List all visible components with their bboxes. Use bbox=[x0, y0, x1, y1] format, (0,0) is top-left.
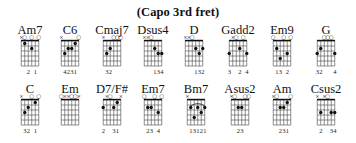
chord-dsus4: Dsus4××○134 bbox=[131, 24, 175, 80]
finger-dot bbox=[153, 47, 156, 50]
finger-number: 2 bbox=[319, 127, 322, 134]
chord-diagram: ×○○324 bbox=[216, 24, 260, 74]
finger-number: 2 bbox=[286, 68, 289, 75]
finger-dot bbox=[34, 101, 37, 104]
finger-dot bbox=[286, 52, 289, 55]
chord-em9: Em9○○○132 bbox=[260, 24, 304, 80]
finger-dot bbox=[102, 106, 105, 109]
open-string-marker: ○ bbox=[36, 34, 41, 40]
finger-dot bbox=[201, 47, 204, 50]
muted-string-marker: × bbox=[185, 93, 189, 99]
finger-dot bbox=[316, 52, 319, 55]
finger-dot bbox=[109, 47, 112, 50]
open-string-marker: ○ bbox=[29, 93, 34, 99]
finger-dot bbox=[279, 57, 282, 60]
chord-em7: Em7○○○234 bbox=[131, 83, 175, 139]
open-string-marker: ○ bbox=[246, 93, 251, 99]
finger-dot bbox=[74, 42, 77, 45]
finger-number: 2 bbox=[319, 68, 322, 75]
chord-diagram: ×○○231 bbox=[260, 83, 304, 133]
finger-number: 4 bbox=[333, 68, 337, 75]
finger-number: 2 bbox=[27, 127, 30, 134]
finger-dot bbox=[157, 52, 160, 55]
finger-dot bbox=[238, 47, 241, 50]
chord-diagram: ×○○○21 bbox=[8, 24, 52, 74]
chord-c6: C6×○4231 bbox=[48, 24, 92, 80]
chord-c: C×○○321 bbox=[8, 83, 52, 139]
chord-csus2: Csus2××○234 bbox=[304, 83, 348, 139]
finger-dot bbox=[63, 52, 66, 55]
open-string-marker: ○ bbox=[76, 34, 81, 40]
finger-number: 1 bbox=[116, 127, 119, 134]
finger-dot bbox=[319, 47, 322, 50]
finger-number: 3 bbox=[150, 127, 153, 134]
chord-diagram: ×○○321 bbox=[8, 83, 52, 133]
finger-number: 4 bbox=[157, 127, 161, 134]
finger-dot bbox=[330, 111, 333, 114]
finger-dot bbox=[237, 106, 240, 109]
finger-dot bbox=[240, 106, 243, 109]
finger-number: 3 bbox=[228, 68, 231, 75]
open-string-marker: ○ bbox=[325, 93, 330, 99]
finger-dot bbox=[228, 52, 231, 55]
open-string-marker: ○ bbox=[22, 34, 27, 40]
finger-number: 2 bbox=[102, 127, 105, 134]
open-string-marker: ○ bbox=[29, 34, 34, 40]
chord-d: D××○132 bbox=[172, 24, 216, 80]
finger-dot bbox=[70, 47, 73, 50]
chord-diagram: ××○134 bbox=[131, 24, 175, 74]
finger-dot bbox=[194, 47, 197, 50]
finger-dot bbox=[196, 106, 199, 109]
open-string-marker: ○ bbox=[281, 34, 286, 40]
finger-dot bbox=[245, 52, 248, 55]
finger-dot bbox=[116, 101, 119, 104]
muted-string-marker: × bbox=[101, 34, 105, 40]
finger-dot bbox=[193, 116, 196, 119]
finger-number: 1 bbox=[203, 127, 206, 134]
finger-dot bbox=[105, 52, 108, 55]
finger-dot bbox=[319, 111, 322, 114]
chord-diagram: ○××○○× bbox=[48, 83, 92, 133]
chord-am7: Am7×○○○21 bbox=[8, 24, 52, 80]
finger-dot bbox=[200, 111, 203, 114]
muted-string-marker: × bbox=[315, 93, 319, 99]
open-string-marker: ○ bbox=[234, 34, 239, 40]
finger-number: 1 bbox=[74, 68, 77, 75]
chord-diagram: ○○○234 bbox=[131, 83, 175, 133]
chord-diagram: ×○○○23 bbox=[218, 83, 262, 133]
chord-diagram: ×○4231 bbox=[48, 24, 92, 74]
chord-asus2: Asus2×○○○23 bbox=[218, 83, 262, 139]
finger-dot bbox=[189, 106, 192, 109]
chord-diagram: ×○×231 bbox=[90, 83, 134, 133]
muted-string-marker: × bbox=[59, 34, 63, 40]
finger-number: 4 bbox=[245, 68, 249, 75]
finger-dot bbox=[203, 106, 206, 109]
finger-number: 2 bbox=[27, 68, 30, 75]
open-string-marker: ○ bbox=[159, 93, 164, 99]
open-string-marker: ○ bbox=[241, 34, 246, 40]
chord-diagram: ○○○324 bbox=[304, 24, 348, 74]
open-string-marker: ○ bbox=[274, 93, 279, 99]
finger-dot bbox=[67, 47, 70, 50]
open-string-marker: ○ bbox=[190, 34, 195, 40]
finger-dot bbox=[23, 111, 26, 114]
chord-em: Em○××○○× bbox=[48, 83, 92, 139]
open-string-marker: ○ bbox=[108, 93, 113, 99]
finger-dot bbox=[333, 111, 336, 114]
chord-diagram: ○○○132 bbox=[260, 24, 304, 74]
muted-string-marker: × bbox=[119, 93, 123, 99]
muted-string-marker: × bbox=[77, 93, 81, 99]
finger-dot bbox=[112, 106, 115, 109]
finger-dot bbox=[333, 52, 336, 55]
finger-dot bbox=[275, 47, 278, 50]
open-string-marker: ○ bbox=[149, 34, 154, 40]
chord-g: G○○○324 bbox=[304, 24, 348, 80]
open-string-marker: ○ bbox=[36, 93, 41, 99]
finger-number: 1 bbox=[34, 127, 37, 134]
finger-dot bbox=[157, 111, 160, 114]
finger-dot bbox=[146, 106, 149, 109]
chord-diagram: ××○132 bbox=[172, 24, 216, 74]
open-string-marker: ○ bbox=[288, 93, 293, 99]
finger-number: 2 bbox=[201, 68, 204, 75]
open-string-marker: ○ bbox=[271, 34, 276, 40]
